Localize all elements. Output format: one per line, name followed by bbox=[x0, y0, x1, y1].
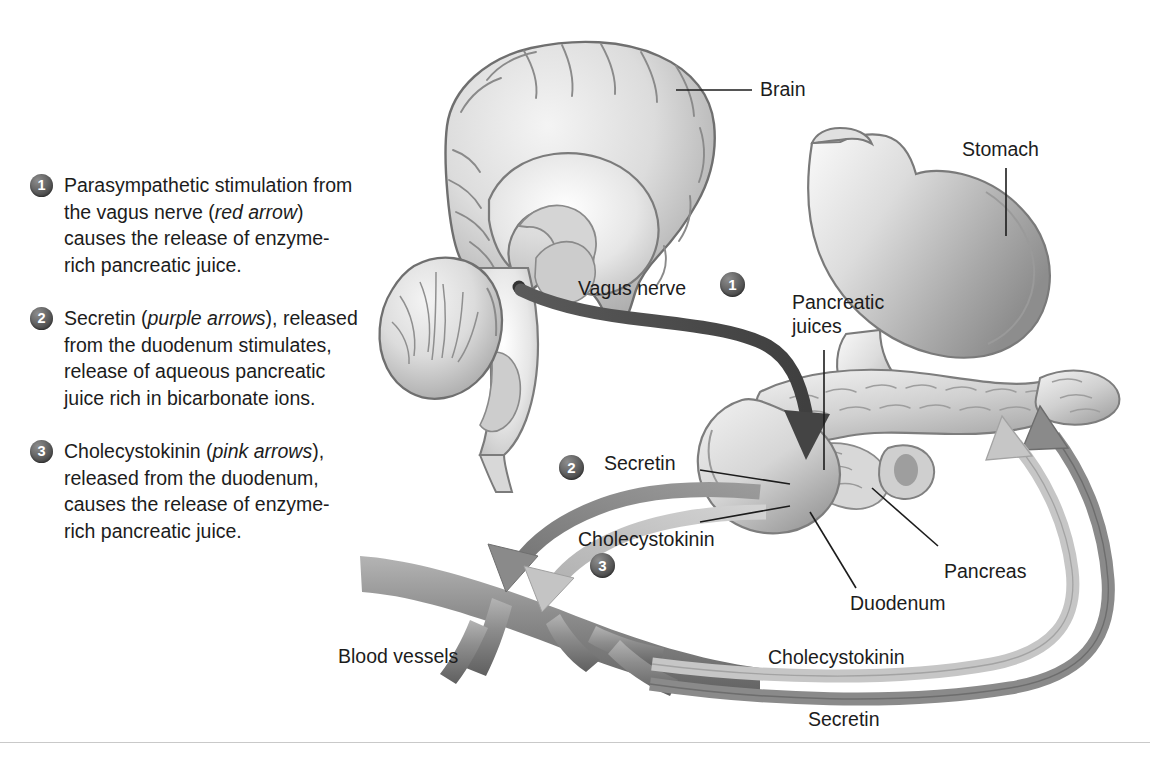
label-pancreas: Pancreas bbox=[944, 560, 1026, 583]
step-1-emphasis: red arrow bbox=[215, 201, 297, 223]
legend-step-2: 2 Secretin (purple arrows), released fro… bbox=[30, 305, 360, 411]
label-pancreatic-juices: Pancreatic juices bbox=[792, 290, 902, 338]
label-cholecystokinin-mid: Cholecystokinin bbox=[578, 528, 715, 551]
label-cholecystokinin-bottom: Cholecystokinin bbox=[768, 646, 905, 669]
step-1-text: Parasympathetic stimulation from the vag… bbox=[64, 172, 360, 278]
step-2-badge: 2 bbox=[30, 307, 53, 330]
label-duodenum: Duodenum bbox=[850, 592, 945, 615]
step-3-text: Cholecystokinin (pink arrows), released … bbox=[64, 438, 360, 544]
legend-step-3: 3 Cholecystokinin (pink arrows), release… bbox=[30, 438, 360, 544]
step-3-badge: 3 bbox=[30, 440, 53, 463]
step-3-text-before: Cholecystokinin ( bbox=[64, 440, 212, 462]
legend-step-1: 1 Parasympathetic stimulation from the v… bbox=[30, 172, 360, 278]
leader-duodenum bbox=[810, 512, 856, 588]
label-vagus-nerve: Vagus nerve bbox=[578, 277, 686, 300]
bottom-divider bbox=[0, 742, 1150, 743]
step-1-badge: 1 bbox=[30, 174, 53, 197]
label-brain: Brain bbox=[760, 78, 806, 101]
step-2-text-before: Secretin ( bbox=[64, 307, 147, 329]
label-secretin-bottom: Secretin bbox=[808, 708, 880, 731]
figure-canvas: 1 Parasympathetic stimulation from the v… bbox=[0, 0, 1150, 771]
step-1-text-before: Parasympathetic stimulation from the vag… bbox=[64, 174, 352, 223]
step-2-text: Secretin (purple arrows), released from … bbox=[64, 305, 360, 411]
step-2-emphasis: purple arrows bbox=[147, 307, 265, 329]
brain-illustration bbox=[380, 42, 715, 492]
step-3-emphasis: pink arrows bbox=[212, 440, 312, 462]
legend: 1 Parasympathetic stimulation from the v… bbox=[30, 172, 360, 571]
label-stomach: Stomach bbox=[962, 138, 1039, 161]
marker-1: 1 bbox=[720, 272, 745, 297]
label-secretin-mid: Secretin bbox=[604, 452, 676, 475]
marker-2: 2 bbox=[559, 455, 584, 480]
label-blood-vessels: Blood vessels bbox=[338, 645, 458, 668]
marker-3: 3 bbox=[590, 553, 615, 578]
